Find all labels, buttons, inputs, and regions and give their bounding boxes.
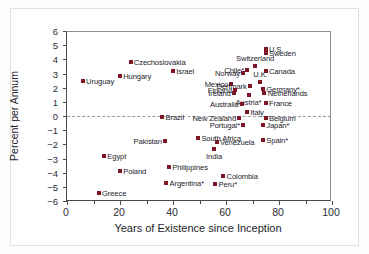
y-tick-mark (63, 102, 67, 103)
data-point (118, 74, 122, 78)
data-point (118, 169, 122, 173)
data-point-label: Italy (250, 108, 263, 117)
data-point-label: Ireland (208, 89, 231, 98)
plot-area: UruguayHungaryCzechoslovakiaIsraelChile*… (66, 31, 331, 201)
y-tick-mark (63, 144, 67, 145)
x-tick-mark-minor (200, 201, 201, 204)
x-tick-mark-minor (147, 201, 148, 204)
data-point (212, 147, 216, 151)
y-tick-label: 0 (0, 111, 58, 122)
data-point (241, 71, 245, 75)
data-point-label: Pakistan (134, 136, 162, 145)
data-point-label: Uruguay (86, 77, 114, 86)
data-point (264, 101, 268, 105)
data-point-label: Israel (176, 67, 194, 76)
data-point (262, 91, 266, 95)
y-tick-label: −6 (0, 196, 58, 207)
data-point-label: Egypt (107, 152, 126, 161)
y-tick-label: −4 (0, 167, 58, 178)
data-point-label: Netherlands (268, 89, 308, 98)
y-tick-label: 1 (0, 96, 58, 107)
data-point (164, 181, 168, 185)
x-tick-label: 40 (166, 206, 178, 218)
data-point (81, 79, 85, 83)
data-point-label: Brazil (166, 113, 184, 122)
y-tick-label: −5 (0, 181, 58, 192)
data-point (241, 123, 245, 127)
data-point (163, 139, 167, 143)
y-tick-mark (63, 59, 67, 60)
data-point-label: U.S. (269, 44, 283, 53)
data-point-label: Hungary (123, 71, 151, 80)
x-tick-mark (173, 201, 174, 205)
data-point (247, 93, 251, 97)
data-point-label: Canada (269, 67, 295, 76)
x-tick-label: 20 (113, 206, 125, 218)
y-tick-label: 3 (0, 68, 58, 79)
data-point (97, 191, 101, 195)
y-tick-label: 4 (0, 54, 58, 65)
y-tick-mark (63, 173, 67, 174)
data-point (171, 69, 175, 73)
data-point (264, 51, 268, 55)
data-point (240, 102, 244, 106)
data-point (232, 91, 236, 95)
x-tick-mark (279, 201, 280, 205)
data-point-label: Poland (123, 167, 146, 176)
x-tick-label: 60 (219, 206, 231, 218)
y-tick-label: −2 (0, 139, 58, 150)
y-tick-mark (63, 187, 67, 188)
x-axis-title: Years of Existence since Inception (114, 222, 281, 234)
data-point (264, 116, 268, 120)
data-point-label: Greece (102, 189, 126, 198)
data-point (261, 138, 265, 142)
data-point-label: Spain* (266, 136, 288, 145)
x-tick-label: 100 (322, 206, 340, 218)
x-tick-mark-minor (253, 201, 254, 204)
data-point (248, 84, 252, 88)
data-point (221, 174, 225, 178)
x-tick-mark (120, 201, 121, 205)
y-tick-mark (63, 74, 67, 75)
data-point-label: U.K. (253, 70, 267, 79)
data-point (261, 123, 265, 127)
y-tick-label: 5 (0, 40, 58, 51)
x-tick-mark (67, 201, 68, 205)
x-tick-label: 80 (272, 206, 284, 218)
data-point-label: India (206, 152, 222, 161)
data-point (245, 68, 249, 72)
y-tick-mark (63, 45, 67, 46)
y-tick-mark (63, 130, 67, 131)
y-tick-label: 2 (0, 82, 58, 93)
data-point (258, 80, 262, 84)
data-point (196, 136, 200, 140)
data-point (160, 115, 164, 119)
data-point (253, 64, 257, 68)
data-point (213, 182, 217, 186)
y-tick-mark (63, 159, 67, 160)
x-tick-mark-minor (94, 201, 95, 204)
data-point-label: Norway (215, 68, 240, 77)
y-tick-label: −3 (0, 153, 58, 164)
data-point-label: Philippines (172, 163, 208, 172)
data-point (264, 47, 268, 51)
y-tick-mark (63, 116, 67, 117)
data-point (215, 140, 219, 144)
data-point-label: Portugal* (210, 120, 240, 129)
data-point-label: Argentina* (170, 179, 204, 188)
data-point-label: Peru* (219, 180, 238, 189)
x-tick-mark (226, 201, 227, 205)
x-tick-label: 0 (63, 206, 69, 218)
y-tick-label: −1 (0, 125, 58, 136)
x-tick-mark-minor (306, 201, 307, 204)
y-tick-mark (63, 31, 67, 32)
data-point (245, 110, 249, 114)
x-tick-mark (332, 201, 333, 205)
data-point-label: Venezuela (220, 138, 255, 147)
data-point-label: Czechoslovakia (134, 58, 186, 67)
data-point (167, 165, 171, 169)
figure-container: Percent per Annum Years of Existence sin… (0, 0, 369, 254)
y-tick-label: 6 (0, 26, 58, 37)
data-point (102, 154, 106, 158)
y-tick-mark (63, 88, 67, 89)
